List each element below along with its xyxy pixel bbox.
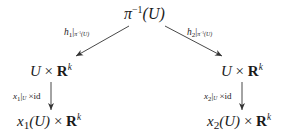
node-right-middle: U × Rk (221, 64, 263, 79)
label-left-down: x1|U ×id (13, 92, 41, 101)
label-top-to-right: h2|π−1(U) (187, 28, 212, 38)
node-left-middle: U × Rk (30, 64, 72, 79)
label-top-to-left: h1|π−1(U) (64, 28, 89, 38)
node-top: π−1(U) (124, 6, 165, 22)
node-left-bottom: x1(U) × Rk (17, 114, 81, 129)
label-right-down: x2|U ×id (204, 92, 232, 101)
node-right-bottom: x2(U) × Rk (207, 114, 271, 129)
